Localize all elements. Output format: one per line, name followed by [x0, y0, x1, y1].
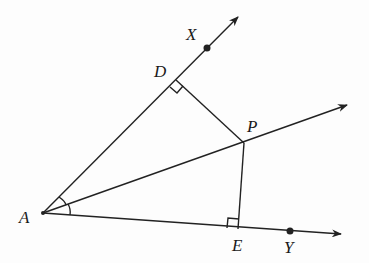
ray-AY [43, 213, 341, 234]
label-X: X [186, 26, 196, 43]
label-P: P [247, 118, 257, 135]
point-X-dot [204, 45, 211, 52]
diagram-canvas: X D P A E Y [0, 0, 369, 263]
point-Y-dot [287, 228, 294, 235]
right-angle-mark-D [170, 86, 183, 93]
label-Y: Y [284, 239, 293, 256]
label-E: E [232, 237, 242, 254]
segment-PD [176, 80, 244, 143]
geometry-figure [0, 0, 369, 263]
segment-PE [238, 143, 244, 229]
vertex-A-dot [41, 211, 45, 215]
label-A: A [19, 209, 29, 226]
angle-mark-PAY [68, 204, 70, 215]
angle-mark-XAP [59, 197, 66, 205]
label-D: D [154, 63, 166, 80]
ray-AP [43, 105, 347, 213]
